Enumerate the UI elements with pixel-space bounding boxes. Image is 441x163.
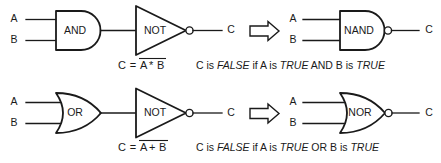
- caption-nor: C is FALSE if A is TRUE OR B is TRUE: [196, 141, 380, 153]
- not-gate-label-top: NOT: [144, 24, 167, 36]
- output-label-c-nand: C: [425, 23, 433, 35]
- caption-nand-seg-4: AND B is: [308, 59, 356, 71]
- not-gate-bubble-top: [186, 27, 193, 34]
- caption-nand-seg-1: FALSE: [217, 59, 250, 71]
- input-label-a-nor: A: [289, 95, 296, 107]
- caption-nor-seg-1: FALSE: [217, 141, 250, 153]
- logic-gate-diagram: A B AND NOT C A B NAND C C = A: [0, 0, 441, 163]
- input-label-b-nor: B: [289, 116, 296, 128]
- equation-nand-operator: *: [149, 59, 154, 71]
- caption-nand-seg-2: if A is: [249, 59, 279, 71]
- caption-nor-seg-2: if A is: [249, 141, 279, 153]
- equation-nor-operand-a: A: [140, 141, 148, 153]
- caption-nand-seg-0: C is: [196, 59, 217, 71]
- not-gate-bubble-bottom: [186, 109, 193, 116]
- caption-nor-seg-5: TRUE: [350, 141, 380, 153]
- output-label-c-not-bottom: C: [227, 106, 235, 118]
- input-label-a-or: A: [10, 95, 17, 107]
- or-gate-label: OR: [67, 106, 83, 118]
- input-label-a-nand: A: [289, 12, 296, 24]
- not-gate-label-bottom: NOT: [144, 106, 167, 118]
- caption-nand-seg-5: TRUE: [356, 59, 386, 71]
- caption-nor-seg-4: OR B is: [308, 141, 350, 153]
- input-label-b-nand: B: [289, 33, 296, 45]
- equation-nand-operand-b: B: [157, 59, 165, 71]
- caption-nor-seg-3: TRUE: [280, 141, 310, 153]
- equation-nor: C = A + B: [118, 141, 168, 153]
- nor-gate-bubble: [385, 109, 392, 116]
- caption-nand-seg-3: TRUE: [280, 59, 310, 71]
- input-label-a-and: A: [10, 12, 17, 24]
- equation-nor-lhs: C =: [118, 141, 137, 153]
- output-label-c-nor: C: [425, 106, 433, 118]
- equation-nand: C = A * B: [118, 59, 166, 71]
- equivalence-arrow-icon-bottom: [250, 104, 279, 123]
- nand-gate-bubble: [384, 27, 391, 34]
- caption-nand: C is FALSE if A is TRUE AND B is TRUE: [196, 59, 386, 71]
- nand-gate-label: NAND: [344, 24, 374, 36]
- equation-nand-operand-a: A: [140, 59, 148, 71]
- nor-gate-label: NOR: [348, 106, 372, 118]
- input-label-b-or: B: [10, 116, 17, 128]
- nor-equivalence-row: A B OR NOT C A B NOR C C = A + B: [10, 89, 433, 153]
- equation-nand-lhs: C =: [118, 59, 137, 71]
- input-label-b-and: B: [10, 33, 17, 45]
- nand-equivalence-row: A B AND NOT C A B NAND C C = A: [10, 6, 433, 71]
- equivalence-arrow-icon-top: [250, 22, 279, 41]
- output-label-c-not-top: C: [227, 23, 235, 35]
- equation-nor-operator: +: [149, 141, 156, 153]
- and-gate-label: AND: [64, 24, 87, 36]
- caption-nor-seg-0: C is: [196, 141, 217, 153]
- equation-nor-operand-b: B: [159, 141, 167, 153]
